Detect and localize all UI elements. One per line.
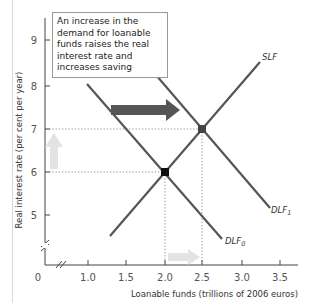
slf-label: SLF: [262, 52, 277, 62]
x-tick-label: 2.5: [194, 272, 210, 283]
y-tick-label: 8: [31, 81, 37, 92]
x-tick-label: 3.5: [272, 272, 288, 283]
dlf0-label: DLF0: [225, 236, 245, 248]
quantity-rise-arrow: [168, 249, 200, 265]
initial-equilibrium-dot: [161, 168, 169, 176]
guide-lines: [46, 129, 202, 265]
x-tick-label: 3.0: [234, 272, 250, 283]
interest-rate-rise-arrow: [45, 133, 63, 169]
y-axis-break-gap: [42, 243, 48, 248]
y-tick-label: 7: [31, 124, 37, 135]
dlf1-label: DLF1: [271, 205, 291, 217]
y-tick-label: 6: [31, 167, 37, 178]
y-tick-label: 9: [31, 35, 37, 46]
new-equilibrium-dot: [198, 125, 206, 133]
dlf1-curve: [150, 68, 270, 208]
y-tick-label: 5: [31, 210, 37, 221]
x-axis-title: Loanable funds (trillions of 2006 euros): [131, 289, 298, 299]
x-tick-label: 1.0: [80, 272, 96, 283]
y-ticks: [45, 40, 50, 215]
x-tick-label: 2.0: [157, 272, 173, 283]
x-tick-label: 1.5: [118, 272, 134, 283]
demand-shift-arrow: [111, 99, 180, 121]
slf-curve: [110, 62, 260, 236]
y-axis-title: Real interest rate (per cent per year): [14, 72, 24, 229]
annotation-callout: An increase in the demand for loanable f…: [52, 12, 168, 78]
x-tick-label: 0: [35, 272, 41, 283]
